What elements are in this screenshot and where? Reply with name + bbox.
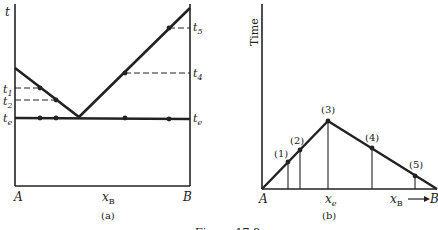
point-5 — [413, 174, 418, 179]
x-axis-label: xB — [102, 190, 115, 206]
point-label-5: (5) — [409, 159, 423, 170]
label-te-right: te — [193, 112, 202, 127]
point-4 — [370, 146, 375, 151]
panel-a: t t1 t2 te t5 t4 te A xB B (a) — [3, 4, 203, 221]
label-t5: t5 — [193, 21, 203, 36]
point-label-4: (4) — [365, 132, 379, 143]
panel-b: Time (1) (2) (3) (4) (5) A xe xB B (b) — [248, 4, 438, 221]
point-label-2: (2) — [290, 135, 304, 146]
eutectic-point-2 — [54, 116, 59, 121]
y-axis-label: t — [5, 5, 10, 19]
eutectic-point-5 — [167, 117, 172, 122]
caption-a: (a) — [101, 210, 115, 221]
liquidus-curve — [15, 8, 190, 117]
label-te-left: te — [3, 112, 12, 127]
point-t5 — [167, 26, 172, 31]
point-t2 — [54, 98, 59, 103]
point-label-3: (3) — [321, 104, 335, 115]
point-3 — [326, 119, 331, 124]
point-1 — [286, 160, 291, 165]
point-t4 — [123, 71, 128, 76]
eutectic-point-4 — [123, 116, 128, 121]
time-label: Time — [248, 18, 261, 46]
x-axis-label-b: xB — [390, 192, 403, 208]
eutectic-point-1 — [38, 116, 43, 121]
eutectic-composition-label: xe — [325, 192, 337, 208]
caption-b: (b) — [322, 210, 336, 221]
point-label-1: (1) — [274, 148, 288, 159]
label-B: B — [182, 190, 192, 204]
label-A-b: A — [258, 192, 268, 206]
label-B-b: B — [429, 192, 438, 206]
label-A: A — [13, 190, 23, 204]
point-t1 — [38, 86, 43, 91]
label-t4: t4 — [193, 67, 203, 82]
point-2 — [298, 148, 303, 153]
figure: t t1 t2 te t5 t4 te A xB B (a) Time (1) … — [0, 0, 438, 230]
figure-caption: Figure 17.8 — [195, 226, 260, 230]
